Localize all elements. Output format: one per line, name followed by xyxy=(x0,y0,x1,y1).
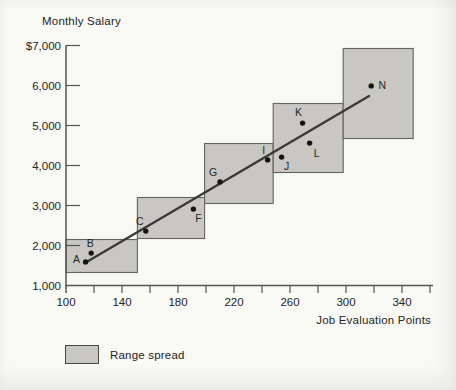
point-label-A: A xyxy=(73,253,80,265)
x-axis-title: Job Evaluation Points xyxy=(316,314,431,327)
point-label-F: F xyxy=(195,212,201,224)
y-tick-label-3000: 3,000 xyxy=(32,200,61,212)
x-tick-label-260: 260 xyxy=(280,296,299,308)
y-tick-label-5000: 5,000 xyxy=(32,120,61,132)
data-point-A xyxy=(83,259,88,264)
point-label-L: L xyxy=(314,147,320,159)
data-point-N xyxy=(369,83,374,88)
y-tick-label-4000: 4,000 xyxy=(32,160,61,172)
point-label-K: K xyxy=(295,106,302,118)
data-point-K xyxy=(300,120,305,125)
x-tick-label-140: 140 xyxy=(112,296,131,308)
range-spread-swatch xyxy=(65,345,99,364)
data-point-J xyxy=(279,154,284,159)
range-spread-rect-grade-5 xyxy=(343,49,413,139)
point-label-N: N xyxy=(378,79,386,91)
point-label-B: B xyxy=(87,237,94,249)
legend-label: Range spread xyxy=(110,349,185,361)
data-point-C xyxy=(143,228,148,233)
data-point-G xyxy=(217,179,222,184)
x-tick-label-220: 220 xyxy=(224,296,243,308)
salary-scatter-chart: $7,0006,0005,0004,0003,0002,0001,0001001… xyxy=(0,0,456,340)
y-tick-label-2000: 2,000 xyxy=(32,240,61,252)
data-point-F xyxy=(191,206,196,211)
data-point-B xyxy=(89,250,94,255)
data-point-I xyxy=(265,157,270,162)
point-label-I: I xyxy=(262,144,265,156)
x-tick-label-180: 180 xyxy=(168,296,187,308)
y-tick-label-1000: 1,000 xyxy=(32,280,61,292)
x-tick-label-300: 300 xyxy=(336,296,355,308)
y-tick-label-7000: $7,000 xyxy=(26,40,61,52)
trend-line xyxy=(85,96,369,263)
point-label-G: G xyxy=(209,166,217,178)
data-point-L xyxy=(307,140,312,145)
x-tick-label-100: 100 xyxy=(56,296,75,308)
point-label-C: C xyxy=(136,215,144,227)
scanned-chart-page: Monthly Salary $7,0006,0005,0004,0003,00… xyxy=(0,0,456,390)
y-tick-label-6000: 6,000 xyxy=(32,80,61,92)
legend: Range spread xyxy=(65,345,185,364)
point-label-J: J xyxy=(284,160,289,172)
x-tick-label-340: 340 xyxy=(392,296,411,308)
